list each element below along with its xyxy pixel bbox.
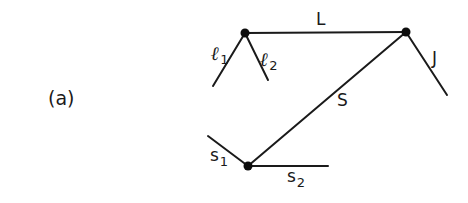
edge-L — [245, 32, 406, 33]
panel-label: (a) — [48, 87, 74, 109]
node-bottom — [244, 162, 253, 171]
label-L: L — [316, 9, 326, 29]
label-J: J — [431, 48, 437, 68]
label-s2-main: s — [287, 166, 296, 186]
diagram-canvas: (a) L S J ℓ1 ℓ2 s1 s2 — [0, 0, 468, 203]
label-l1-main: ℓ — [211, 42, 219, 64]
label-s2-sub: 2 — [297, 175, 305, 190]
node-left-top — [241, 29, 250, 38]
label-l1: ℓ1 — [211, 42, 228, 67]
label-l2: ℓ2 — [260, 48, 277, 73]
label-l1-sub: 1 — [220, 52, 228, 67]
label-l2-main: ℓ — [260, 48, 268, 70]
edge-J — [406, 32, 447, 95]
label-l2-sub: 2 — [269, 58, 277, 73]
node-right-top — [402, 28, 411, 37]
label-s2: s2 — [287, 166, 305, 190]
label-S: S — [337, 90, 348, 110]
label-s1-sub: 1 — [220, 154, 228, 169]
edge-S — [248, 32, 406, 166]
label-s1-main: s — [210, 145, 219, 165]
